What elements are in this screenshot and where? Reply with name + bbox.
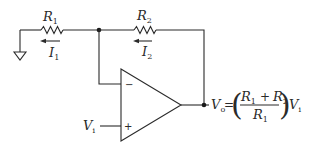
noninverting-input-sign: + [124,121,132,132]
current-arrow-i2 [133,39,152,43]
wire-inverting-input [99,30,121,84]
resistor-r1 [41,27,63,34]
label-i1: I1 [48,45,59,62]
output-node [202,103,207,108]
label-vi-input: Vi [83,118,95,135]
formula-vi: Vi [289,97,301,114]
label-r1: R1 [42,9,58,26]
ground-symbol [14,30,26,60]
resistor-r2 [134,27,156,34]
gain-formula: Vo = ( R1+R2 R1 ) Vi [211,87,301,124]
label-i2: I2 [141,44,152,61]
op-amp-circuit-diagram: − + R1 R2 I1 I2 [0,0,313,152]
current-arrow-i1 [40,39,60,43]
inverting-input-sign: − [125,79,133,90]
label-r2: R2 [136,8,152,25]
formula-denominator: R1 [252,107,268,124]
